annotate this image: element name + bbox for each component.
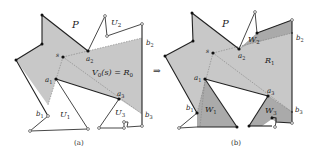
- label-p-b: P: [221, 18, 229, 29]
- label-p: P: [71, 19, 79, 30]
- label-u2: U2: [111, 18, 121, 28]
- panel-a: P s a2 a1 a3 b2 b1 b3 U2 U1 U3 V0(s) = R…: [15, 14, 154, 148]
- label-b3-b: b3: [295, 106, 303, 115]
- point-s: [61, 55, 64, 58]
- label-b2: b2: [146, 39, 154, 48]
- panel-b: P s a2 a1 a3 b2 b1 b3 W2 W1 W3 R1 (b): [164, 11, 304, 147]
- label-b1: b1: [36, 110, 44, 119]
- label-b2-b: b2: [296, 34, 304, 43]
- label-b3: b3: [145, 111, 153, 120]
- figure: P s a2 a1 a3 b2 b1 b3 U2 U1 U3 V0(s) = R…: [0, 0, 319, 153]
- visibility-region-r0: [16, 15, 142, 114]
- label-s: s: [56, 51, 59, 58]
- caption-b: (b): [231, 139, 241, 147]
- point-s-b: [211, 51, 214, 54]
- implies-arrow: ⇒: [153, 66, 161, 76]
- caption-a: (a): [74, 139, 84, 147]
- label-u1: U1: [60, 110, 70, 120]
- label-s-b: s: [206, 47, 209, 54]
- label-u3: U3: [115, 108, 126, 118]
